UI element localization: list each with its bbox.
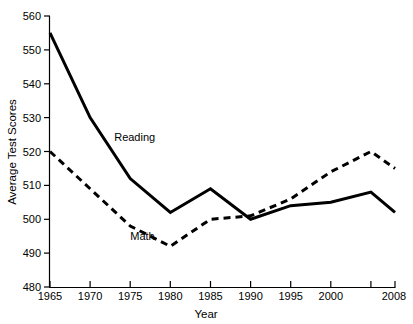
- x-axis-tick-labels: 1965 1970 1975 1980 1985 1990 1995 2000 …: [38, 290, 406, 302]
- y-tick-label: 520: [23, 146, 41, 158]
- x-tick-label: 1975: [118, 290, 142, 302]
- series-annotation-reading: Reading: [114, 131, 155, 143]
- y-axis-title: Average Test Scores: [6, 99, 18, 205]
- x-tick-label: 1985: [198, 290, 222, 302]
- x-tick-label: 1990: [238, 290, 262, 302]
- series-line-reading: [50, 33, 395, 219]
- y-tick-label: 500: [23, 213, 41, 225]
- x-tick-label: 1965: [38, 290, 62, 302]
- x-tick-label: 1995: [278, 290, 302, 302]
- y-tick-label: 550: [23, 44, 41, 56]
- y-tick-label: 510: [23, 179, 41, 191]
- y-tick-label: 560: [23, 10, 41, 22]
- line-chart-plot: 560 550 540 530 520 510 500 490 480 1965: [0, 0, 413, 324]
- x-axis-title: Year: [194, 308, 217, 320]
- y-tick-label: 540: [23, 78, 41, 90]
- x-tick-label: 2000: [319, 290, 343, 302]
- y-tick-label: 530: [23, 112, 41, 124]
- y-axis-tick-labels: 560 550 540 530 520 510 500 490 480: [23, 10, 41, 293]
- x-tick-label: 2008: [382, 290, 406, 302]
- series-annotation-math: Math: [130, 230, 154, 242]
- x-tick-label: 1970: [78, 290, 102, 302]
- y-tick-label: 490: [23, 247, 41, 259]
- chart-container: 560 550 540 530 520 510 500 490 480 1965: [0, 0, 413, 324]
- x-tick-label: 1980: [158, 290, 182, 302]
